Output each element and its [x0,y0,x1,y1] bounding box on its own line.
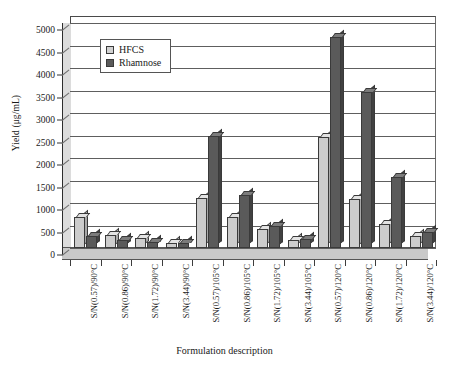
y-axis-tick-mark [57,120,62,121]
legend-label-rhamnose: Rhamnose [119,57,161,68]
bar-front-face [361,92,372,248]
bar-group [375,16,406,248]
bar-rhamnose [117,240,128,248]
bar-front-face [196,198,207,248]
bar-rhamnose [86,236,97,248]
y-axis-tick-label: 2000 [21,160,55,170]
y-axis-tick-mark [57,30,62,31]
legend-label-hfcs: HFCS [119,44,144,55]
y-axis-tick-label: 3500 [21,93,55,103]
x-axis-category-label: S/N(3.44)/90°C [181,264,191,338]
y-axis-tick-label: 4500 [21,48,55,58]
bar-hfcs [288,240,299,248]
bar-group [70,16,101,248]
y-axis-tick-mark [57,187,62,188]
x-axis-title: Formulation description [0,345,449,356]
y-axis-tick-label: 500 [21,228,55,238]
y-axis-tick-mark [57,52,62,53]
x-axis-category-label: S/N(1.72)/120°C [394,264,404,338]
bar-group [314,16,345,248]
y-axis-tick-mark [57,255,62,256]
bar-front-face [379,224,390,248]
x-axis-category-labels: S/N(0.57)/90°CS/N(0.86)/90°CS/N(1.72)/90… [62,266,436,338]
y-axis-tick-mark [57,165,62,166]
bar-rhamnose [361,92,372,248]
bar-hfcs [410,236,421,248]
bar-group [406,16,437,248]
bar-front-face [318,137,329,248]
bar-rhamnose [178,243,189,248]
x-axis-category-label: S/N(0.86)/90°C [120,264,130,338]
bar-hfcs [379,224,390,248]
x-axis-category-label: S/N(0.86)/105°C [242,264,252,338]
x-axis-category-label: S/N(0.57)/90°C [89,264,99,338]
bar-hfcs [74,217,85,249]
bar-front-face [117,240,128,248]
y-axis-tick-label: 3000 [21,115,55,125]
bar-rhamnose [422,232,433,248]
bar-front-face [166,243,177,248]
bar-front-face [269,226,280,249]
bar-front-face [239,195,250,248]
bar-front-face [300,239,311,248]
bar-rhamnose [330,37,341,248]
y-axis-tick-label: 2500 [21,138,55,148]
chart-legend: HFCS Rhamnose [100,39,171,73]
y-axis-tick-label: 1500 [21,183,55,193]
bar-top-face [137,234,151,238]
bar-front-face [227,217,238,248]
bar-front-face [330,37,341,248]
bar-front-face [208,136,219,248]
x-axis-tick-mark [436,260,437,266]
legend-swatch-hfcs [106,46,114,54]
bar-front-face [391,177,402,248]
y-axis-tick-mark [57,142,62,143]
bar-front-face [257,229,268,248]
bar-hfcs [135,238,146,248]
bar-group [192,16,223,248]
y-axis-tick-mark [57,97,62,98]
bar-top-face [76,213,90,217]
legend-swatch-rhamnose [106,59,114,67]
bar-hfcs [349,199,360,249]
bar-front-face [349,199,360,249]
legend-item-rhamnose: Rhamnose [106,56,161,69]
bar-front-face [410,236,421,248]
gridline [70,248,436,249]
x-axis-category-label: S/N(0.57)/120°C [333,264,343,338]
x-axis-category-label: S/N(1.72)/105°C [272,264,282,338]
y-axis-tick-label: 5000 [21,25,55,35]
x-axis-category-label: S/N(0.86)/120°C [364,264,374,338]
y-axis-tick-label: 4000 [21,70,55,80]
bar-front-face [147,242,158,248]
x-axis-category-label: S/N(0.57)/105°C [211,264,221,338]
y-axis-tick-label: 0 [21,250,55,260]
bar-rhamnose [239,195,250,248]
bar-hfcs [318,137,329,248]
bar-front-face [178,243,189,248]
bar-rhamnose [269,226,280,249]
bar-front-face [135,238,146,248]
bar-group [223,16,254,248]
bar-rhamnose [147,242,158,248]
bar-group [345,16,376,248]
bar-group [253,16,284,248]
bar-rhamnose [300,239,311,248]
y-axis-line [62,23,63,255]
bar-front-face [74,217,85,249]
x-axis-category-label: S/N(1.72)/90°C [150,264,160,338]
x-axis-category-label: S/N(3.44)/105°C [303,264,313,338]
bar-front-face [288,240,299,248]
bar-rhamnose [391,177,402,248]
bar-hfcs [227,217,238,248]
y-axis-title: Yield (μg/mL) [11,63,21,183]
bar-hfcs [105,235,116,249]
bar-hfcs [166,243,177,248]
y-axis-tick-mark [57,75,62,76]
bar-hfcs [257,229,268,248]
y-axis-tick-mark [57,232,62,233]
bar-chart-figure: Yield (μg/mL) 05001000150020002500300035… [0,0,449,368]
y-axis-tick-label: 1000 [21,205,55,215]
y-axis-tick-mark [57,210,62,211]
bar-top-face [107,231,121,235]
